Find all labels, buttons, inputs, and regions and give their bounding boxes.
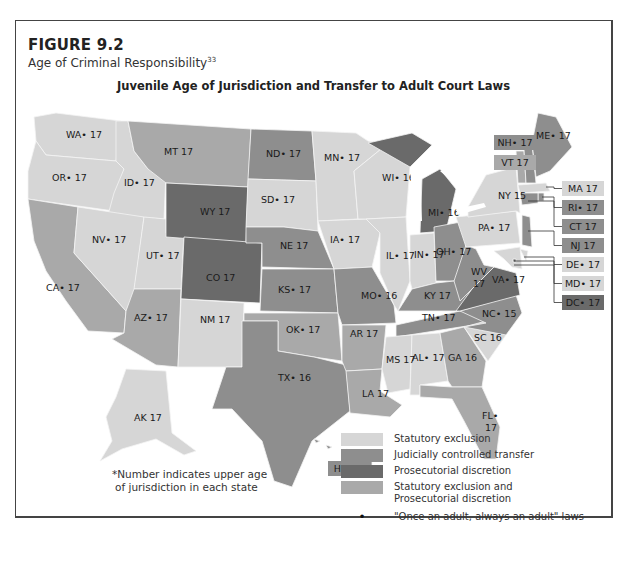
state-in: [410, 233, 436, 289]
state-label-nm: NM 17: [200, 314, 230, 325]
bullet-dot-icon: •: [341, 511, 383, 523]
legend-swatch-both: [341, 481, 383, 494]
legend-item-statutory: Statutory exclusion: [341, 433, 601, 449]
state-co: [181, 237, 262, 303]
state-label-mn: MN• 17: [324, 152, 360, 163]
callout-leader-nj: [528, 231, 562, 246]
state-label-mi: MI• 16: [428, 207, 460, 218]
state-label-mo: MO• 16: [361, 290, 397, 301]
state-label-ok: OK• 17: [286, 324, 320, 335]
legend: Statutory exclusion Judicially controlle…: [341, 433, 601, 527]
callout-label-nh: NH• 17: [498, 137, 533, 148]
state-label-ak: AK 17: [134, 412, 162, 423]
callout-label-nj: NJ 17: [570, 240, 595, 251]
legend-label-both: Statutory exclusion and Prosecutorial di…: [394, 481, 513, 505]
legend-item-prosecutorial: Prosecutorial discretion: [341, 465, 601, 481]
state-label-la: LA 17: [362, 388, 389, 399]
state-label-mt: MT 17: [164, 146, 193, 157]
legend-label-prosecutorial: Prosecutorial discretion: [394, 465, 511, 477]
note-line-2: of jurisdiction in each state: [112, 481, 267, 494]
legend-label-once-adult: "Once an adult, always an adult" laws: [394, 511, 584, 523]
state-label-wv: WV: [471, 266, 487, 277]
state-label-sc: SC 16: [474, 332, 502, 343]
map-footnote: *Number indicates upper age of jurisdict…: [112, 468, 267, 494]
state-label-nd: ND• 17: [266, 148, 301, 159]
state-dc: [513, 259, 516, 262]
state-label-ia: IA• 17: [330, 234, 360, 245]
callout-leader-ct: [528, 201, 562, 227]
state-label-wa: WA• 17: [66, 129, 102, 140]
callout-label-ma: MA 17: [568, 183, 598, 194]
callout-label-ri: RI• 17: [568, 202, 598, 213]
legend-label-statutory: Statutory exclusion: [394, 433, 491, 445]
state-label-co: CO 17: [206, 272, 235, 283]
state-label-al: AL• 17: [412, 352, 445, 363]
state-label-nc: NC• 15: [482, 308, 516, 319]
state-label-sd: SD• 17: [261, 194, 295, 205]
state-label-fl: FL•: [482, 410, 498, 421]
callout-label-md: MD• 17: [565, 278, 601, 289]
legend-swatch-statutory: [341, 433, 383, 446]
state-label-ky: KY 17: [424, 290, 451, 301]
state-label-il: IL• 17: [386, 250, 415, 261]
state-label-fl-age: 17: [485, 422, 497, 433]
state-label-wi: WI• 16: [382, 172, 415, 183]
legend-label-both-line2: Prosecutorial discretion: [394, 493, 513, 505]
state-md: [494, 247, 522, 269]
callout-label-de: DE• 17: [566, 259, 600, 270]
legend-item-once-adult: • "Once an adult, always an adult" laws: [341, 511, 601, 527]
state-label-va: VA• 17: [492, 274, 525, 285]
state-label-ut: UT• 17: [146, 250, 179, 261]
state-label-id: ID• 17: [124, 177, 155, 188]
callout-label-dc: DC• 17: [566, 297, 601, 308]
state-label-ca: CA• 17: [46, 282, 80, 293]
state-label-wv-age: 17: [473, 278, 485, 289]
legend-item-both: Statutory exclusion and Prosecutorial di…: [341, 481, 601, 511]
state-label-ne: NE 17: [280, 240, 308, 251]
state-label-ar: AR 17: [350, 328, 378, 339]
figure-frame: FIGURE 9.2 Age of Criminal Responsibilit…: [15, 20, 613, 518]
state-label-tx: TX• 16: [277, 372, 311, 383]
state-me: [532, 113, 572, 177]
state-sd: [246, 179, 318, 231]
state-label-nv: NV• 17: [92, 234, 126, 245]
note-line-1: *Number indicates upper age: [112, 468, 267, 481]
state-label-ks: KS• 17: [278, 284, 311, 295]
state-label-az: AZ• 17: [134, 312, 168, 323]
state-label-me: ME• 17: [536, 130, 571, 141]
callout-leader-ri: [542, 197, 562, 208]
state-label-oh: OH• 17: [436, 246, 471, 257]
legend-swatch-prosecutorial: [341, 465, 383, 478]
state-label-pa: PA• 17: [478, 222, 510, 233]
legend-swatch-judicial: [341, 449, 383, 462]
state-nm: [178, 299, 244, 367]
callout-label-ct: CT 17: [569, 221, 597, 232]
legend-label-judicial: Judicially controlled transfer: [394, 449, 534, 461]
state-label-or: OR• 17: [52, 172, 87, 183]
state-label-tn: TN• 17: [421, 312, 456, 323]
legend-label-both-line1: Statutory exclusion and: [394, 481, 513, 493]
state-label-ga: GA 16: [448, 352, 477, 363]
callout-label-vt: VT 17: [501, 157, 528, 168]
state-label-ms: MS 17: [386, 354, 415, 365]
state-label-wy: WY 17: [200, 206, 230, 217]
state-label-ny: NY 15: [498, 190, 526, 201]
legend-item-judicial: Judicially controlled transfer: [341, 449, 601, 465]
